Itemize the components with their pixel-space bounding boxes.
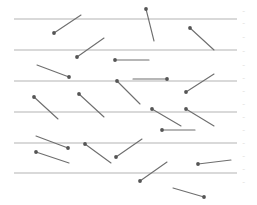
needle-shaft [190, 28, 214, 50]
needle [37, 65, 71, 79]
side-label: ~ [242, 116, 245, 120]
needle-head-icon [188, 26, 192, 30]
side-label: ~ [242, 142, 245, 146]
needle-head-icon [32, 95, 36, 99]
needle-head-icon [113, 58, 117, 62]
needle-head-icon [77, 92, 81, 96]
needle-head-icon [83, 142, 87, 146]
needle-shaft [146, 9, 154, 41]
needle-head-icon [52, 31, 56, 35]
needle-shaft [173, 188, 204, 197]
needle-shaft [36, 152, 69, 163]
needle [196, 160, 231, 166]
needle [144, 7, 154, 41]
needle [77, 92, 104, 117]
needle-head-icon [196, 162, 200, 166]
side-label: ~ [242, 77, 245, 81]
side-label: ~ [242, 10, 245, 14]
needle-shaft [77, 38, 104, 57]
needles [32, 7, 231, 199]
needle [114, 139, 142, 159]
side-label: ~ [242, 181, 245, 185]
needle [34, 150, 69, 163]
needle-head-icon [150, 107, 154, 111]
side-label: ~ [242, 103, 245, 107]
side-label: ~ [242, 90, 245, 94]
needle-head-icon [115, 79, 119, 83]
side-label: ~ [242, 22, 245, 26]
needle [115, 79, 140, 104]
needle [83, 142, 111, 163]
side-label: ~ [242, 155, 245, 159]
needle [173, 188, 206, 199]
needle [160, 128, 195, 132]
side-label: ~ [242, 129, 245, 133]
needle-head-icon [202, 195, 206, 199]
needle-shaft [140, 162, 167, 181]
needle [32, 95, 58, 119]
needle-head-icon [138, 179, 142, 183]
needle-head-icon [67, 75, 71, 79]
diagram-canvas [0, 0, 257, 205]
needle [184, 74, 214, 94]
needle-shaft [198, 160, 231, 164]
needle [75, 38, 104, 59]
needle-head-icon [34, 150, 38, 154]
needle-head-icon [184, 90, 188, 94]
side-label: ~ [242, 168, 245, 172]
buffon-needle-diagram: ~~~~~~~~~~~~~~ [0, 0, 257, 205]
needle [113, 58, 149, 62]
needle-shaft [54, 15, 81, 33]
side-label: ~ [242, 64, 245, 68]
needle [52, 15, 81, 35]
needle-shaft [37, 65, 69, 77]
needle-shaft [116, 139, 142, 157]
needle [188, 26, 214, 50]
needle-shaft [117, 81, 140, 104]
side-label: ~ [242, 50, 245, 54]
needle-head-icon [160, 128, 164, 132]
needle [133, 77, 169, 81]
needle-head-icon [165, 77, 169, 81]
needle-head-icon [114, 155, 118, 159]
needle-shaft [36, 136, 68, 148]
needle-shaft [34, 97, 58, 119]
needle-shaft [85, 144, 111, 163]
needle-shaft [79, 94, 104, 117]
needle-shaft [186, 74, 214, 92]
needle-head-icon [75, 55, 79, 59]
needle [150, 107, 181, 126]
side-label: ~ [242, 36, 245, 40]
needle [184, 107, 214, 126]
needle-head-icon [66, 146, 70, 150]
needle-head-icon [144, 7, 148, 11]
needle-head-icon [184, 107, 188, 111]
